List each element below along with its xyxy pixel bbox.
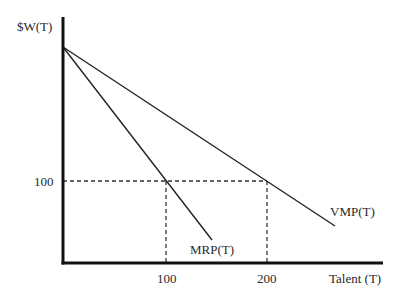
y-tick-100: 100 [34, 175, 54, 188]
x-tick-100: 100 [157, 272, 177, 285]
mrp-line [63, 47, 212, 240]
mrp-label: MRP(T) [190, 243, 234, 256]
x-axis-label: Talent (T) [329, 272, 381, 285]
y-axis-label: $W(T) [17, 20, 52, 33]
x-tick-200: 200 [257, 272, 277, 285]
vmp-line [63, 47, 335, 226]
vmp-label: VMP(T) [330, 205, 375, 218]
